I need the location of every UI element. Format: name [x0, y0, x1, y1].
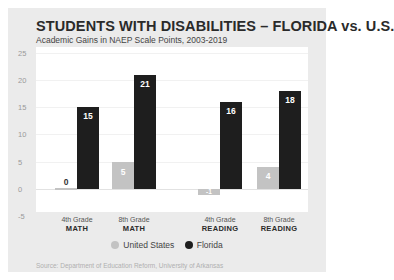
- legend-item-us: United States: [111, 240, 174, 250]
- chart-title: STUDENTS WITH DISABILITIES – FLORIDA vs.…: [36, 18, 394, 34]
- x-label-grade: 8th Grade: [104, 216, 164, 224]
- y-tick: 20: [18, 76, 34, 85]
- legend-label-us: United States: [123, 240, 174, 250]
- source-note: Source: Department of Education Reform, …: [36, 262, 223, 269]
- gridline-25: [36, 53, 308, 54]
- legend: United States Florida: [0, 240, 334, 251]
- bar-label-fl-4th-math: 15: [77, 111, 99, 121]
- bar-us-4th-math: [55, 188, 77, 190]
- chart-subtitle: Academic Gains in NAEP Scale Points, 200…: [36, 35, 227, 45]
- x-label-grade: 8th Grade: [249, 216, 309, 224]
- y-tick: 25: [18, 49, 34, 58]
- gridline-20: [36, 80, 308, 81]
- x-label-4th-reading: 4th Grade READING: [190, 216, 250, 233]
- x-label-grade: 4th Grade: [47, 216, 107, 224]
- y-tick: 0: [18, 185, 34, 194]
- x-label-8th-math: 8th Grade MATH: [104, 216, 164, 233]
- x-label-subject: MATH: [47, 224, 107, 233]
- x-label-subject: READING: [190, 224, 250, 233]
- y-tick: 15: [18, 103, 34, 112]
- bar-label-fl-8th-reading: 18: [279, 95, 301, 105]
- x-label-4th-math: 4th Grade MATH: [47, 216, 107, 233]
- bar-label-fl-4th-reading: 16: [220, 106, 242, 116]
- x-label-subject: READING: [249, 224, 309, 233]
- legend-swatch-fl-icon: [185, 241, 193, 249]
- legend-label-fl: Florida: [197, 240, 223, 250]
- y-tick: -5: [18, 212, 34, 221]
- y-tick: 10: [18, 130, 34, 139]
- x-label-grade: 4th Grade: [190, 216, 250, 224]
- y-tick: 5: [18, 158, 34, 167]
- bar-label-us-4th-reading: -1: [198, 188, 220, 195]
- legend-swatch-us-icon: [111, 241, 119, 249]
- bar-label-us-8th-math: 5: [112, 167, 134, 177]
- bar-label-us-4th-math: 0: [55, 177, 77, 187]
- legend-item-fl: Florida: [185, 240, 223, 250]
- bar-fl-8th-reading: [279, 91, 301, 189]
- bar-label-fl-8th-math: 21: [134, 79, 156, 89]
- bar-fl-8th-math: [134, 75, 156, 189]
- x-label-subject: MATH: [104, 224, 164, 233]
- x-label-8th-reading: 8th Grade READING: [249, 216, 309, 233]
- bar-label-us-8th-reading: 4: [257, 171, 279, 181]
